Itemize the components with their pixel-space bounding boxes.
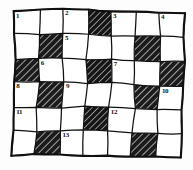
grid-cell-open[interactable] [39,58,64,82]
grid-cell-open[interactable] [108,107,136,133]
grid-cell-open[interactable] [157,110,182,134]
grid-cell-blocked[interactable] [83,106,108,131]
grid-cell-open[interactable] [14,33,39,59]
grid-cell-open[interactable] [157,86,183,110]
grid-cell-open[interactable] [61,82,87,108]
grid-cell-open[interactable] [112,59,135,84]
grid-cell-open[interactable] [62,33,88,59]
grid-cell-blocked[interactable] [39,33,63,58]
grid-cell-open[interactable] [14,10,41,35]
grid-cell-blocked[interactable] [130,133,158,157]
grid-cell-open[interactable] [109,82,136,108]
grid-cell-open[interactable] [159,13,185,38]
grid-cell-blocked[interactable] [86,59,112,83]
grid-cell-open[interactable] [14,107,37,131]
grid-cell-blocked[interactable] [134,85,160,110]
grid-cell-open[interactable] [60,106,84,131]
grid-cell-open[interactable] [83,130,108,156]
grid-cell-open[interactable] [63,9,89,35]
grid-cell-open[interactable] [40,9,63,35]
grid-cell-open[interactable] [11,130,36,156]
grid-cell-blocked[interactable] [134,36,160,62]
grid-cell-blocked[interactable] [160,61,185,86]
grid-cell-open[interactable] [14,82,40,108]
grid-cell-blocked[interactable] [34,131,61,155]
grid-cell-open[interactable] [111,11,136,36]
grid-cell-open[interactable] [60,130,83,156]
grid-cell-open[interactable] [108,131,132,157]
grid-cell-open[interactable] [111,36,135,61]
grid-cell-open[interactable] [85,82,112,107]
crossword-figure: 12345678910111213 [0,0,193,170]
grid-cell-open[interactable] [134,61,160,87]
grid-cell-blocked[interactable] [14,58,39,81]
grid-cell-open[interactable] [62,58,87,83]
grid-cell-open[interactable] [160,36,185,62]
grid-cell-open[interactable] [132,109,158,134]
grid-cell-open[interactable] [135,12,160,36]
crossword-grid-drawing [0,0,193,170]
grid-cell-blocked[interactable] [36,82,64,108]
grid-cell-blocked[interactable] [88,9,111,36]
grid-cell-open[interactable] [156,133,182,157]
grid-cell-open[interactable] [86,34,112,59]
grid-cell-open[interactable] [36,107,61,131]
